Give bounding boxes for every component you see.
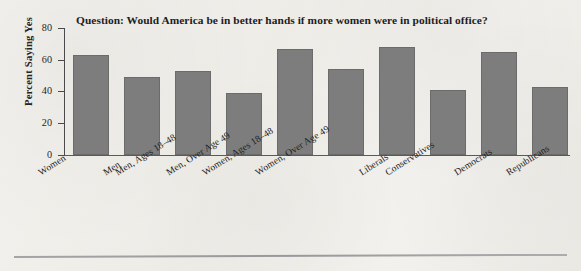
bar-chart-figure: Question: Would America be in better han… bbox=[0, 0, 581, 271]
y-tick-80 bbox=[58, 28, 65, 29]
bar-women bbox=[73, 55, 109, 155]
y-tick-label-0: 0 bbox=[18, 150, 52, 160]
y-tick-20 bbox=[58, 123, 65, 124]
bar-liberals bbox=[379, 47, 415, 155]
y-tick-60 bbox=[58, 60, 65, 61]
bar-democrats bbox=[481, 52, 517, 155]
y-tick-label-20: 20 bbox=[18, 118, 52, 128]
page-rule bbox=[14, 254, 567, 258]
chart-title: Question: Would America be in better han… bbox=[76, 13, 571, 27]
y-axis-label: Percent Saying Yes bbox=[23, 0, 34, 132]
y-tick-40 bbox=[58, 91, 65, 92]
bar-republicans bbox=[532, 87, 568, 155]
y-tick-label-60: 60 bbox=[18, 55, 52, 65]
bar-women-over-49 bbox=[328, 69, 364, 155]
y-tick-label-80: 80 bbox=[18, 23, 52, 33]
y-axis-line bbox=[64, 28, 65, 156]
y-tick-label-40: 40 bbox=[18, 86, 52, 96]
